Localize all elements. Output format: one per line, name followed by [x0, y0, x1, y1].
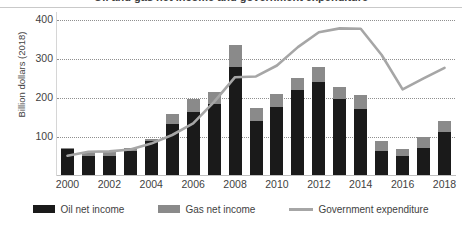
- legend-label: Gas net income: [185, 204, 255, 215]
- x-axis-line: [57, 175, 456, 176]
- top-divider: [0, 7, 462, 8]
- y-tick-label-400: 400: [19, 13, 53, 25]
- government-expenditure-line: [57, 12, 455, 176]
- legend-item-expenditure[interactable]: Government expenditure: [289, 204, 428, 215]
- x-tick-label-2012: 2012: [307, 178, 330, 190]
- x-axis-tick-labels: 2000200220042006200820102012201420162018: [57, 178, 455, 194]
- x-tick-label-2014: 2014: [349, 178, 372, 190]
- x-tick-label-2018: 2018: [433, 178, 456, 190]
- bar-swatch-gray-icon: [158, 205, 180, 213]
- bar-swatch-black-icon: [33, 205, 55, 213]
- x-tick-label-2016: 2016: [391, 178, 414, 190]
- y-tick-label-200: 200: [19, 91, 53, 103]
- legend-item-gas[interactable]: Gas net income: [158, 204, 255, 215]
- chart-legend: Oil net incomeGas net incomeGovernment e…: [0, 200, 462, 218]
- chart-title-cropped: Oil and gas net income and government ex…: [0, 0, 462, 7]
- legend-label: Government expenditure: [318, 204, 428, 215]
- plot-area: [57, 12, 455, 176]
- x-tick-label-2010: 2010: [265, 178, 288, 190]
- y-tick-label-100: 100: [19, 130, 53, 142]
- chart-title-text: Oil and gas net income and government ex…: [0, 0, 462, 3]
- legend-divider: [0, 196, 462, 197]
- y-tick-label-300: 300: [19, 52, 53, 64]
- x-tick-label-2000: 2000: [56, 178, 79, 190]
- legend-label: Oil net income: [60, 204, 124, 215]
- chart-figure: Oil and gas net income and government ex…: [0, 0, 462, 227]
- x-tick-label-2006: 2006: [181, 178, 204, 190]
- x-tick-label-2008: 2008: [223, 178, 246, 190]
- x-tick-label-2004: 2004: [140, 178, 163, 190]
- line-swatch-gray-icon: [289, 208, 313, 211]
- legend-item-oil[interactable]: Oil net income: [33, 204, 124, 215]
- y-axis-tick-labels: 100200300400: [13, 12, 53, 176]
- x-tick-label-2002: 2002: [98, 178, 121, 190]
